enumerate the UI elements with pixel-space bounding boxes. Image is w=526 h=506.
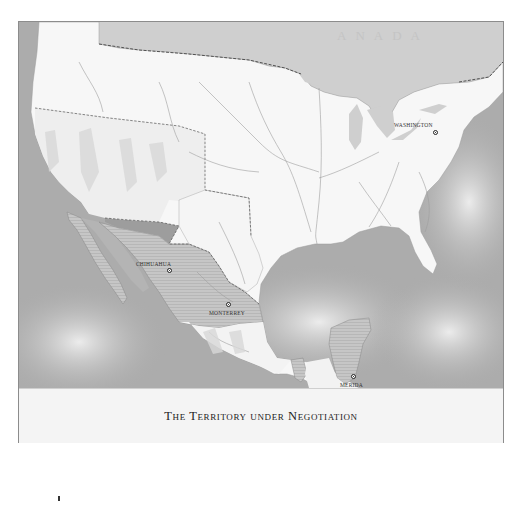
stray-mark [58,496,60,501]
country-label-canada: ANADA [337,28,429,44]
map-frame: ANADA WASHINGTON CHIHUAHUA MONTERREY MEX… [18,21,504,443]
city-label-washington: WASHINGTON [394,122,433,128]
capital-marker-icon [433,130,438,135]
city-marker-icon [226,302,231,307]
city-label-monterrey: MONTERREY [209,310,245,316]
map-title: The Territory under Negotiation [164,409,357,424]
map-graphic [19,22,503,388]
map-canvas: ANADA WASHINGTON CHIHUAHUA MONTERREY MEX… [19,22,503,388]
city-label-chihuahua: CHIHUAHUA [136,261,171,267]
city-marker-icon [167,268,172,273]
caption-bar: The Territory under Negotiation [19,388,503,443]
city-marker-icon [351,374,356,379]
